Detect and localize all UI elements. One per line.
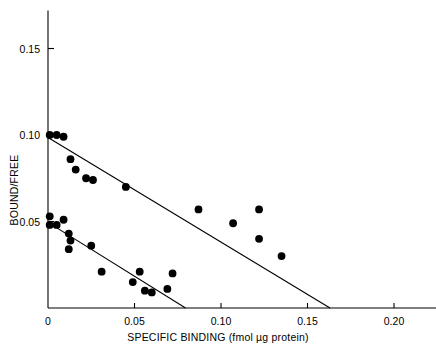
data-point [278, 252, 286, 260]
data-point [163, 285, 171, 293]
fit-lines-group [48, 138, 330, 308]
data-point [46, 221, 54, 229]
y-tick-label: 0.15 [20, 43, 41, 55]
data-points-group [46, 131, 286, 296]
data-point [72, 166, 80, 174]
y-tick-label: 0.10 [20, 129, 41, 141]
scatchard-plot-figure: 00.050.100.150.200.050.100.15 SPECIFIC B… [0, 0, 436, 347]
data-point [122, 183, 130, 191]
upper-regression [48, 138, 330, 308]
x-tick-label: 0.10 [211, 315, 232, 327]
data-point [89, 176, 97, 184]
data-point [129, 278, 137, 286]
data-point [46, 131, 54, 139]
data-point [67, 237, 75, 245]
data-point [82, 174, 90, 182]
data-point [255, 205, 263, 213]
data-point [46, 212, 54, 220]
data-point [60, 216, 68, 224]
data-point [65, 245, 73, 253]
data-point [195, 205, 203, 213]
data-point [98, 268, 106, 276]
data-point [141, 287, 149, 295]
axes-group [48, 10, 436, 308]
x-tick-label: 0 [45, 315, 51, 327]
chart-canvas: 00.050.100.150.200.050.100.15 SPECIFIC B… [0, 0, 436, 347]
x-tick-label: 0.20 [384, 315, 405, 327]
data-point [136, 268, 144, 276]
data-point [53, 131, 61, 139]
data-point [255, 235, 263, 243]
data-point [65, 230, 73, 238]
y-tick-label: 0.05 [20, 216, 41, 228]
data-point [169, 270, 177, 278]
data-point [229, 219, 237, 227]
data-point [53, 221, 61, 229]
tick-labels-group: 00.050.100.150.200.050.100.15 [20, 43, 405, 328]
data-point [67, 155, 75, 163]
x-tick-label: 0.15 [297, 315, 318, 327]
data-point [60, 133, 68, 141]
data-point [87, 242, 95, 250]
x-axis-title: SPECIFIC BINDING (fmol µg protein) [127, 331, 308, 343]
x-tick-label: 0.05 [124, 315, 145, 327]
data-point [148, 289, 156, 297]
y-axis-title: BOUND/FREE [8, 155, 20, 226]
